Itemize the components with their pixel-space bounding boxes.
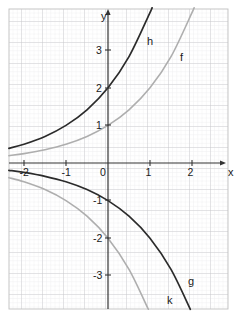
grid-background	[9, 9, 228, 309]
x-tick-label-2: 2	[188, 166, 194, 178]
x-axis-label: x	[228, 166, 234, 178]
y-tick-label--2: -2	[93, 232, 102, 244]
curve-label-k: k	[167, 294, 173, 306]
x-tick-label--1: -1	[62, 166, 71, 178]
y-tick-label--1: -1	[93, 194, 102, 206]
y-tick-label--3: -3	[93, 269, 102, 281]
x-tick-label-1: 1	[146, 166, 152, 178]
exponential-functions-graph: -2-1012321-1-2-3xyfhgk	[0, 0, 238, 319]
y-axis-label: y	[101, 10, 107, 22]
x-tick-label--2: -2	[20, 166, 29, 178]
curve-label-g: g	[188, 275, 194, 287]
y-tick-label-3: 3	[96, 44, 102, 56]
y-tick-label-2: 2	[96, 82, 102, 94]
plot-canvas: -2-1012321-1-2-3xyfhgk	[0, 0, 238, 319]
curve-label-h: h	[147, 35, 153, 47]
y-tick-label-1: 1	[96, 119, 102, 131]
x-tick-label-0: 0	[100, 166, 106, 178]
